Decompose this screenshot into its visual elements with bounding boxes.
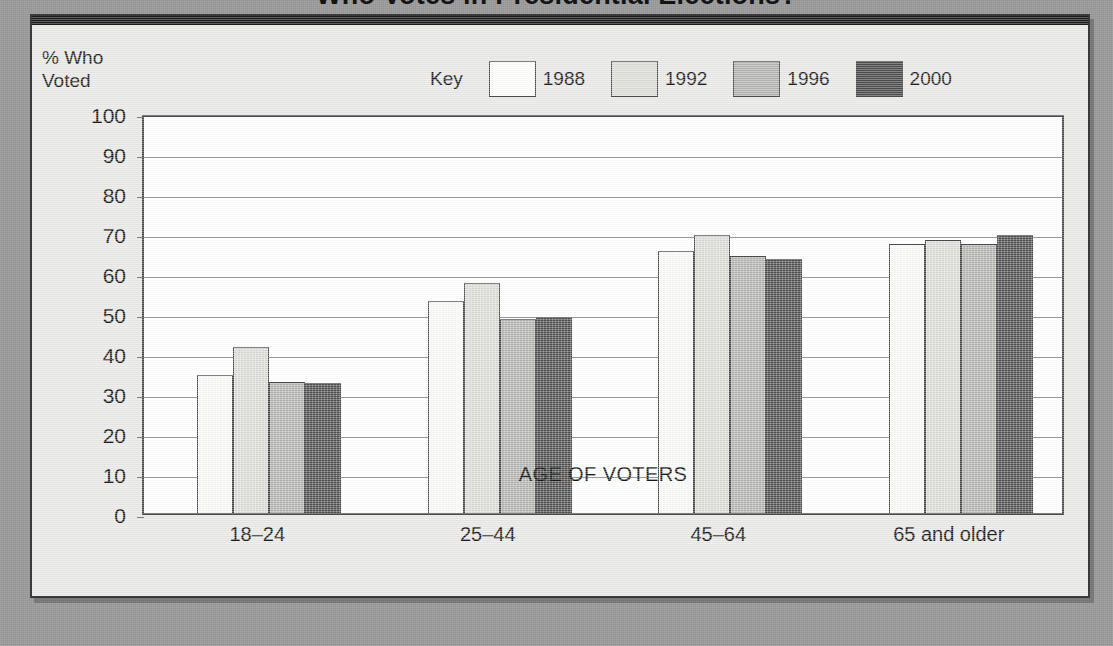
y-axis-tick-mark (137, 437, 144, 438)
chart-title-strip: Who Votes in Presidential Elections? (0, 0, 1113, 14)
y-axis-tick-mark (137, 277, 144, 278)
x-axis-category-label: 45–64 (603, 523, 834, 546)
y-axis-tick-label: 10 (56, 464, 126, 488)
legend-swatch-1996 (733, 61, 780, 97)
legend-swatch-1988 (489, 61, 536, 97)
y-axis-tick-mark (137, 117, 144, 118)
legend-swatch-1992 (611, 61, 658, 97)
legend-item-1988: 1988 (489, 61, 585, 97)
y-axis-tick-label: 20 (56, 424, 126, 448)
y-axis-tick-label: 50 (56, 304, 126, 328)
legend-label-1988: 1988 (543, 68, 585, 90)
y-axis-tick-label: 90 (56, 144, 126, 168)
gridline (144, 237, 1062, 238)
chart-legend: Key 1988 1992 1996 2000 (430, 60, 978, 98)
chart-card: % Who Voted Key 1988 1992 1996 2000 0102… (30, 14, 1090, 598)
x-axis-category-label: 25–44 (373, 523, 604, 546)
y-axis-tick-label: 80 (56, 184, 126, 208)
legend-label-2000: 2000 (910, 68, 952, 90)
x-axis-category-label: 18–24 (142, 523, 373, 546)
y-axis-tick-mark (137, 397, 144, 398)
y-axis-tick-label: 60 (56, 264, 126, 288)
legend-label-1992: 1992 (665, 68, 707, 90)
y-axis-tick-mark (137, 517, 144, 518)
y-axis-tick-label: 100 (56, 104, 126, 128)
bar-2000-18–24 (305, 383, 341, 513)
legend-item-1996: 1996 (733, 61, 829, 97)
legend-swatch-2000 (856, 61, 903, 97)
legend-item-1992: 1992 (611, 61, 707, 97)
bar-1988-18–24 (197, 375, 233, 513)
page-background: Who Votes in Presidential Elections? % W… (0, 0, 1113, 646)
legend-title: Key (430, 68, 463, 90)
card-top-bar (32, 16, 1088, 25)
y-axis-tick-mark (137, 157, 144, 158)
plot-area: 0102030405060708090100 (142, 115, 1064, 515)
bar-1992-18–24 (233, 347, 269, 513)
y-axis-tick-label: 40 (56, 344, 126, 368)
x-axis-title: AGE OF VOTERS (142, 463, 1064, 486)
y-axis-title: % Who Voted (42, 46, 103, 92)
plot-area-wrapper: 0102030405060708090100 18–2425–4445–6465… (112, 115, 1064, 515)
y-axis-tick-mark (137, 197, 144, 198)
bar-1996-18–24 (269, 382, 305, 513)
y-axis-tick-label: 0 (56, 504, 126, 528)
y-axis-tick-mark (137, 237, 144, 238)
gridline (144, 157, 1062, 158)
y-axis-tick-mark (137, 317, 144, 318)
legend-label-1996: 1996 (787, 68, 829, 90)
page-title: Who Votes in Presidential Elections? (0, 0, 1113, 11)
x-axis-category-label: 65 and older (834, 523, 1065, 546)
y-axis-tick-label: 30 (56, 384, 126, 408)
y-axis-tick-mark (137, 357, 144, 358)
y-axis-tick-label: 70 (56, 224, 126, 248)
legend-item-2000: 2000 (856, 61, 952, 97)
gridline (144, 197, 1062, 198)
